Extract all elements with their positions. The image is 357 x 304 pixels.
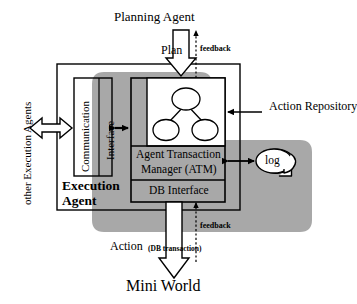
mini-world-label: Mini World xyxy=(126,278,200,295)
atm-block-label-line2: Manager (ATM) xyxy=(141,163,217,175)
feedback-bottom-label: feedback xyxy=(200,222,231,230)
execution-agent-label-line1: Execution xyxy=(62,179,120,193)
log-store-label: log xyxy=(265,154,280,166)
other-execution-agents-label: other Execution Agents xyxy=(22,102,34,205)
db-interface-block-label: DB Interface xyxy=(149,184,209,196)
feedback-top-label: feedback xyxy=(200,45,231,53)
planning-agent-label: Planning Agent xyxy=(114,10,195,24)
peer-agents-double-arrow-icon xyxy=(30,118,72,138)
communication-block-label: Communication xyxy=(80,101,92,172)
plan-flow-label: Plan xyxy=(161,44,182,57)
interface-block-label: Interface xyxy=(105,121,117,160)
action-repository-label-line1: Action Repository xyxy=(269,100,357,113)
action-flow-label: Action xyxy=(110,240,143,253)
atm-block-label-line1: Agent Transaction xyxy=(136,148,221,160)
action-flow-sublabel: (DB transaction) xyxy=(148,245,202,253)
execution-agent-label-line2: Agent xyxy=(62,194,97,208)
